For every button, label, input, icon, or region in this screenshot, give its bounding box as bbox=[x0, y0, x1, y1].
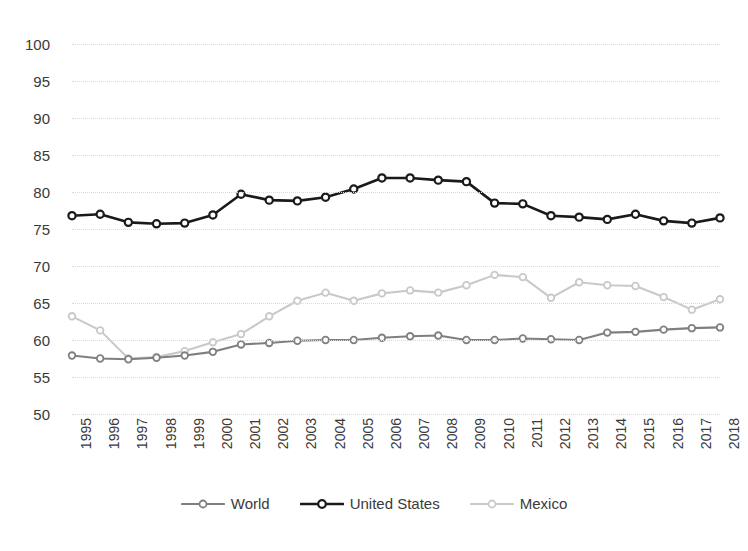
data-point bbox=[688, 219, 695, 226]
x-axis-tick-label: 1995 bbox=[78, 418, 94, 449]
data-point bbox=[660, 217, 667, 224]
data-point bbox=[69, 313, 76, 320]
data-point bbox=[181, 352, 188, 359]
y-axis-tick-label: 100 bbox=[25, 36, 50, 53]
data-point bbox=[604, 329, 611, 336]
gridline bbox=[72, 377, 720, 378]
x-axis-tick-label: 2005 bbox=[360, 418, 376, 449]
legend-marker-icon bbox=[300, 497, 344, 511]
gridline bbox=[72, 303, 720, 304]
x-axis-tick-label: 2013 bbox=[585, 418, 601, 449]
legend-label: United States bbox=[350, 495, 440, 512]
legend-item-united-states[interactable]: United States bbox=[300, 495, 440, 512]
x-axis-tick-label: 2002 bbox=[275, 418, 291, 449]
data-point bbox=[717, 296, 724, 303]
data-point bbox=[604, 282, 611, 289]
x-axis-tick-label: 2007 bbox=[416, 418, 432, 449]
data-point bbox=[294, 197, 301, 204]
series-line bbox=[72, 275, 720, 359]
legend-marker-icon bbox=[470, 497, 514, 511]
series-world bbox=[69, 324, 724, 362]
x-axis-tick-label: 2009 bbox=[472, 418, 488, 449]
gridline bbox=[72, 192, 720, 193]
y-axis: 50556065707580859095100 bbox=[0, 0, 58, 551]
x-axis-tick-label: 1999 bbox=[191, 418, 207, 449]
x-axis-tick-label: 2010 bbox=[501, 418, 517, 449]
y-axis-tick-label: 70 bbox=[33, 258, 50, 275]
x-axis-tick-label: 2014 bbox=[613, 418, 629, 449]
data-point bbox=[660, 294, 667, 301]
data-point bbox=[491, 200, 498, 207]
data-point bbox=[716, 214, 723, 221]
x-axis-tick-label: 1996 bbox=[106, 418, 122, 449]
data-point bbox=[407, 287, 414, 294]
y-axis-tick-label: 65 bbox=[33, 295, 50, 312]
gridline bbox=[72, 414, 720, 415]
series-line bbox=[72, 178, 720, 224]
y-axis-tick-label: 85 bbox=[33, 147, 50, 164]
data-point bbox=[547, 212, 554, 219]
data-point bbox=[689, 306, 696, 313]
x-axis-tick-label: 1998 bbox=[163, 418, 179, 449]
legend-label: Mexico bbox=[520, 495, 568, 512]
gridline bbox=[72, 118, 720, 119]
data-point bbox=[406, 174, 413, 181]
data-point bbox=[689, 325, 696, 332]
y-axis-tick-label: 75 bbox=[33, 221, 50, 238]
data-point bbox=[125, 219, 132, 226]
data-point bbox=[97, 211, 104, 218]
y-axis-tick-label: 60 bbox=[33, 332, 50, 349]
data-point bbox=[69, 352, 76, 359]
y-axis-tick-label: 55 bbox=[33, 369, 50, 386]
data-point bbox=[604, 216, 611, 223]
data-point bbox=[97, 327, 104, 334]
data-point bbox=[632, 211, 639, 218]
x-axis-tick-label: 2018 bbox=[726, 418, 742, 449]
x-axis-tick-label: 2000 bbox=[219, 418, 235, 449]
plot-area bbox=[72, 44, 720, 414]
x-axis-tick-label: 1997 bbox=[134, 418, 150, 449]
legend-item-mexico[interactable]: Mexico bbox=[470, 495, 568, 512]
data-point bbox=[717, 324, 724, 331]
data-point bbox=[632, 329, 639, 336]
legend-label: World bbox=[231, 495, 270, 512]
data-point bbox=[463, 282, 470, 289]
x-axis-tick-label: 2015 bbox=[641, 418, 657, 449]
data-point bbox=[576, 214, 583, 221]
x-axis-tick-label: 2012 bbox=[557, 418, 573, 449]
data-point bbox=[153, 354, 160, 361]
x-axis: 1995199619971998199920002001200220032004… bbox=[72, 418, 720, 490]
data-point bbox=[378, 174, 385, 181]
gridline bbox=[72, 229, 720, 230]
data-point bbox=[97, 355, 104, 362]
gridline bbox=[72, 266, 720, 267]
x-axis-tick-label: 2017 bbox=[698, 418, 714, 449]
data-point bbox=[491, 272, 498, 279]
data-point bbox=[68, 212, 75, 219]
legend-item-world[interactable]: World bbox=[181, 495, 270, 512]
data-point bbox=[322, 289, 329, 296]
data-point bbox=[463, 178, 470, 185]
legend-marker-icon bbox=[181, 497, 225, 511]
data-point bbox=[181, 219, 188, 226]
gridline bbox=[72, 81, 720, 82]
x-axis-tick-label: 2006 bbox=[388, 418, 404, 449]
x-axis-tick-label: 2008 bbox=[444, 418, 460, 449]
data-point bbox=[125, 356, 132, 363]
gridline bbox=[72, 340, 720, 341]
data-point bbox=[435, 332, 442, 339]
data-point bbox=[153, 220, 160, 227]
x-axis-tick-label: 2004 bbox=[332, 418, 348, 449]
data-point bbox=[576, 279, 583, 286]
data-point bbox=[519, 274, 526, 281]
data-point bbox=[379, 290, 386, 297]
x-axis-tick-label: 2003 bbox=[303, 418, 319, 449]
data-point bbox=[322, 194, 329, 201]
y-axis-tick-label: 80 bbox=[33, 184, 50, 201]
y-axis-tick-label: 50 bbox=[33, 406, 50, 423]
data-point bbox=[519, 200, 526, 207]
data-point bbox=[266, 313, 273, 320]
series-united-states bbox=[68, 174, 723, 227]
data-point bbox=[435, 177, 442, 184]
data-point bbox=[266, 197, 273, 204]
